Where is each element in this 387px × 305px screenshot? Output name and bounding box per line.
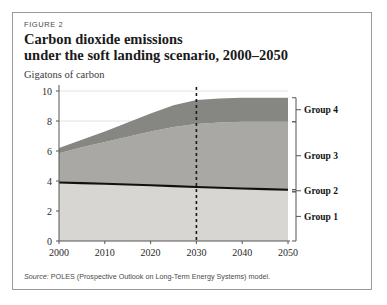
- y-tick-label-10: 10: [42, 86, 52, 97]
- chart-plot-area: 0246810200020102020203020402050Group 4Gr…: [13, 13, 373, 291]
- x-tick-label-2010: 2010: [95, 247, 115, 258]
- y-tick-label-4: 4: [47, 176, 52, 187]
- x-tick-label-2040: 2040: [232, 247, 252, 258]
- source-note: Source: POLES (Prospective Outlook on Lo…: [24, 272, 270, 281]
- figure-panel: FIGURE 2 Carbon dioxide emissions under …: [12, 12, 372, 290]
- source-label: Source:: [24, 272, 49, 281]
- x-tick-label-2020: 2020: [141, 247, 161, 258]
- legend-bracket-4: Group 1: [292, 192, 338, 241]
- legend-bracket-1: Group 4: [292, 98, 338, 122]
- y-tick-label-8: 8: [47, 116, 52, 127]
- legend-label-group-3: Group 3: [304, 151, 338, 161]
- legend-label-group-1: Group 1: [304, 212, 338, 222]
- x-tick-label-2050: 2050: [278, 247, 298, 258]
- legend-label-group-2: Group 2: [304, 186, 338, 196]
- area-group-3: [59, 122, 288, 190]
- stacked-area-chart: 0246810200020102020203020402050Group 4Gr…: [13, 13, 373, 291]
- legend-label-group-4: Group 4: [304, 105, 338, 115]
- legend-bracket-3: Group 2: [292, 186, 338, 196]
- legend-bracket-2: Group 3: [292, 122, 338, 190]
- y-tick-label-0: 0: [47, 236, 52, 247]
- source-text: POLES (Prospective Outlook on Long-Term …: [49, 272, 270, 281]
- x-tick-label-2030: 2030: [186, 247, 206, 258]
- area-group-1: [59, 183, 288, 242]
- x-tick-label-2000: 2000: [49, 247, 69, 258]
- y-tick-label-2: 2: [47, 206, 52, 217]
- y-tick-label-6: 6: [47, 146, 52, 157]
